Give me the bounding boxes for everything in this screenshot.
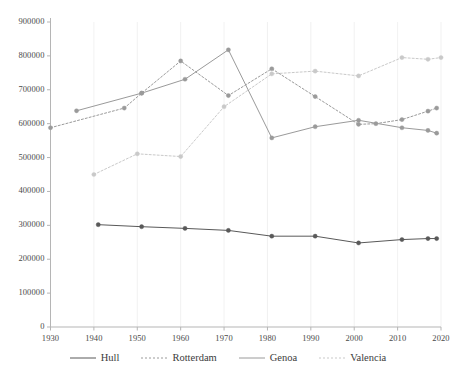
y-axis-tick-label: 600000 (18, 118, 44, 128)
legend-label: Valencia (350, 352, 386, 363)
series-genoa (74, 48, 438, 140)
data-point (356, 122, 360, 126)
data-point (270, 67, 274, 71)
data-point (356, 74, 360, 78)
data-point (270, 234, 274, 238)
x-axis-tick-label: 2020 (416, 333, 456, 343)
legend-label: Genoa (270, 352, 297, 363)
data-point (226, 93, 230, 97)
y-axis-tick-label: 0 (40, 321, 44, 331)
chart-legend: HullRotterdamGenoaValencia (0, 352, 456, 363)
data-point (92, 172, 96, 176)
data-point (400, 126, 404, 130)
data-point (140, 91, 144, 95)
y-axis-tick-label: 100000 (18, 287, 44, 297)
chart-plot-area (0, 0, 456, 390)
data-point (222, 105, 226, 109)
series-line (51, 61, 437, 128)
series-line (77, 50, 437, 138)
data-point (48, 126, 52, 130)
data-point (400, 55, 404, 59)
data-point (426, 57, 430, 61)
legend-line-swatch (239, 354, 265, 362)
line-chart: 0100000200000300000400000500000600000700… (0, 0, 456, 390)
data-point (96, 223, 100, 227)
data-point (356, 118, 360, 122)
y-axis-tick-label: 800000 (18, 50, 44, 60)
data-point (183, 77, 187, 81)
y-axis-tick-label: 700000 (18, 84, 44, 94)
legend-line-swatch (141, 354, 167, 362)
data-point (313, 94, 317, 98)
legend-label: Rotterdam (172, 352, 216, 363)
y-axis-tick-label: 400000 (18, 185, 44, 195)
series-rotterdam (48, 59, 438, 130)
data-point (313, 234, 317, 238)
data-point (356, 241, 360, 245)
data-point (426, 128, 430, 132)
legend-line-swatch (70, 354, 96, 362)
data-point (313, 125, 317, 129)
data-point (400, 118, 404, 122)
legend-item-genoa[interactable]: Genoa (239, 352, 297, 363)
data-point (226, 48, 230, 52)
data-point (439, 55, 443, 59)
legend-item-valencia[interactable]: Valencia (319, 352, 386, 363)
data-point (435, 236, 439, 240)
data-point (435, 106, 439, 110)
data-point (435, 131, 439, 135)
data-point (400, 237, 404, 241)
data-point (313, 69, 317, 73)
data-point (270, 72, 274, 76)
data-point (226, 228, 230, 232)
data-point (179, 59, 183, 63)
y-axis-tick-label: 900000 (18, 16, 44, 26)
legend-line-swatch (319, 354, 345, 362)
y-axis-tick-label: 200000 (18, 253, 44, 263)
data-point (270, 136, 274, 140)
y-axis-tick-label: 300000 (18, 219, 44, 229)
legend-item-hull[interactable]: Hull (70, 352, 120, 363)
data-point (122, 106, 126, 110)
data-point (135, 152, 139, 156)
data-point (426, 236, 430, 240)
data-point (426, 109, 430, 113)
data-point (140, 225, 144, 229)
legend-label: Hull (101, 352, 120, 363)
data-point (183, 226, 187, 230)
y-axis-tick-label: 500000 (18, 152, 44, 162)
legend-item-rotterdam[interactable]: Rotterdam (141, 352, 216, 363)
data-point (179, 154, 183, 158)
data-point (74, 109, 78, 113)
